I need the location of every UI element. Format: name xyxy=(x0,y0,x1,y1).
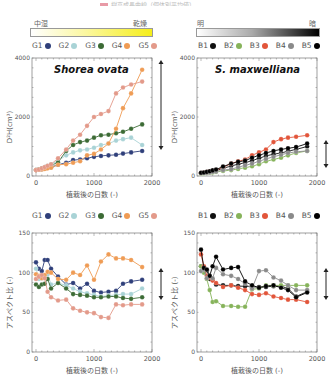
series-b4 xyxy=(199,266,310,293)
data-point-marker xyxy=(214,299,219,304)
data-point-marker xyxy=(64,147,69,152)
data-point-marker xyxy=(129,297,134,302)
data-point-marker xyxy=(236,277,241,282)
data-point-marker xyxy=(229,266,234,271)
x-axis-label: 植栽後の日数 (-) xyxy=(231,190,283,199)
data-point-marker xyxy=(85,138,90,143)
y-tick-label: 100 xyxy=(184,269,196,276)
data-point-marker xyxy=(121,256,126,261)
data-point-marker xyxy=(129,91,134,96)
data-point-marker xyxy=(92,295,97,300)
data-point-marker xyxy=(121,129,126,134)
data-point-marker xyxy=(114,138,119,143)
y-tick-label: 0 xyxy=(191,172,195,179)
data-point-marker xyxy=(257,159,262,164)
data-point-marker xyxy=(99,133,104,138)
data-point-marker xyxy=(56,277,61,282)
data-point-marker xyxy=(106,109,111,114)
legend-marker-icon xyxy=(314,213,320,219)
data-point-marker xyxy=(140,122,145,127)
data-point-marker xyxy=(129,279,134,284)
data-point-marker xyxy=(294,134,299,139)
data-point-marker xyxy=(49,270,54,275)
y-axis-label: D²H(cm³) xyxy=(6,111,14,144)
data-point-marker xyxy=(305,133,310,138)
data-point-marker xyxy=(64,297,69,302)
range-arrow-icon xyxy=(159,60,164,150)
x-axis-label: 植栽後の日数 (-) xyxy=(66,366,118,375)
data-point-marker xyxy=(114,127,119,132)
legend-item-g3: G3 xyxy=(85,211,104,220)
data-point-marker xyxy=(129,302,134,307)
data-point-marker xyxy=(71,306,76,311)
data-point-marker xyxy=(71,270,76,275)
data-point-marker xyxy=(243,288,248,293)
data-point-marker xyxy=(78,293,83,298)
data-point-marker xyxy=(286,283,291,288)
data-point-marker xyxy=(294,145,299,150)
data-point-marker xyxy=(114,302,119,307)
data-point-marker xyxy=(71,150,76,155)
data-point-marker xyxy=(221,267,226,272)
data-point-marker xyxy=(140,265,145,270)
data-point-marker xyxy=(45,289,50,294)
y-tick-label: 4000 xyxy=(15,54,30,61)
data-point-marker xyxy=(305,149,310,154)
legend-label: G3 xyxy=(85,211,96,220)
data-point-marker xyxy=(121,106,126,111)
x-tick-label: 2000 xyxy=(309,355,326,363)
y-tick-label: 50 xyxy=(22,308,30,315)
legend-item-b5: B5 xyxy=(302,211,320,220)
data-point-marker xyxy=(279,296,284,301)
data-point-marker xyxy=(56,162,61,167)
data-point-marker xyxy=(71,292,76,297)
y-tick-label: 0 xyxy=(26,348,30,355)
y-axis-label: アスペクト比 (-) xyxy=(170,276,179,328)
data-point-marker xyxy=(99,143,104,148)
y-tick-label: 50 xyxy=(187,308,195,315)
data-point-marker xyxy=(140,149,145,154)
data-point-marker xyxy=(56,156,61,161)
legend-item-g2: G2 xyxy=(59,211,78,220)
legend-marker-icon xyxy=(45,213,51,219)
legend-marker-icon xyxy=(151,213,157,219)
data-point-marker xyxy=(279,285,284,290)
legend-item-g1: G1 xyxy=(32,211,51,220)
data-point-marker xyxy=(71,138,76,143)
legend-item-b4: B4 xyxy=(276,211,294,220)
data-point-marker xyxy=(214,281,219,286)
y-axis-label: D²H(cm³) xyxy=(171,111,179,144)
data-point-marker xyxy=(114,91,119,96)
legend-marker-icon xyxy=(262,213,268,219)
data-point-marker xyxy=(264,284,269,289)
legend-item-g5: G5 xyxy=(138,211,157,220)
data-point-marker xyxy=(236,160,241,165)
data-point-marker xyxy=(264,157,269,162)
x-tick-label: 2000 xyxy=(144,355,161,363)
data-point-marker xyxy=(271,275,276,280)
x-tick-label: 1000 xyxy=(251,179,268,187)
data-point-marker xyxy=(78,159,83,164)
data-point-marker xyxy=(49,162,54,167)
data-point-marker xyxy=(99,259,104,264)
legend-item-g4: G4 xyxy=(112,211,131,220)
data-point-marker xyxy=(257,285,262,290)
data-point-marker xyxy=(106,252,111,257)
data-point-marker xyxy=(294,283,299,288)
legend-item-b1: B1 xyxy=(198,211,216,220)
y-tick-label: 150 xyxy=(184,229,196,236)
data-point-marker xyxy=(236,165,241,170)
y-tick-label: 150 xyxy=(19,229,31,236)
y-tick-label: 0 xyxy=(191,348,195,355)
data-point-marker xyxy=(78,273,83,278)
data-point-marker xyxy=(305,141,310,146)
y-tick-label: 2000 xyxy=(15,113,30,120)
data-point-marker xyxy=(250,292,255,297)
data-point-marker xyxy=(129,82,134,87)
data-point-marker xyxy=(199,247,204,252)
data-point-marker xyxy=(243,304,248,309)
data-point-marker xyxy=(129,258,134,263)
data-point-marker xyxy=(129,292,134,297)
data-point-marker xyxy=(271,140,276,145)
data-point-marker xyxy=(286,297,291,302)
